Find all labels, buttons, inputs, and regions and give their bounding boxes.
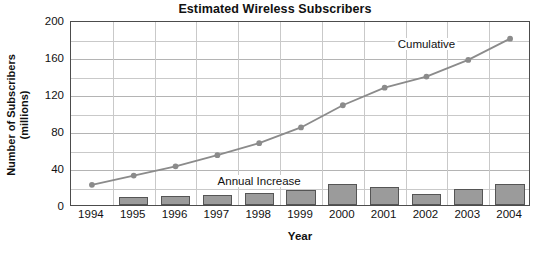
cumulative-marker-2003 xyxy=(465,57,471,63)
cumulative-marker-2000 xyxy=(340,102,346,108)
y-axis-tick-label: 80 xyxy=(51,126,64,138)
cumulative-line-path xyxy=(92,39,510,185)
annotation-cumulative: Cumulative xyxy=(396,38,458,50)
x-axis-tick-label-1999: 1999 xyxy=(287,208,313,220)
chart-title: Estimated Wireless Subscribers xyxy=(0,2,550,16)
y-axis-label-line1: Number of Subscribers xyxy=(5,54,17,176)
y-axis-tick-label: 0 xyxy=(58,200,64,212)
y-axis-tick-labels: 04080120160200 xyxy=(24,21,68,206)
y-axis-tick-label: 200 xyxy=(45,15,64,27)
cumulative-marker-1997 xyxy=(214,152,220,158)
plot-area: CumulativeAnnual Increase xyxy=(70,21,530,206)
cumulative-marker-1996 xyxy=(173,163,179,169)
x-axis-tick-label-2002: 2002 xyxy=(413,208,439,220)
x-axis-tick-label-1998: 1998 xyxy=(245,208,271,220)
x-axis-tick-label-1996: 1996 xyxy=(162,208,188,220)
chart-figure: Estimated Wireless Subscribers Number of… xyxy=(0,0,550,254)
x-axis-tick-labels: 1994199519961997199819992000200120022003… xyxy=(70,208,530,226)
x-axis-tick-label-2001: 2001 xyxy=(371,208,397,220)
y-axis-tick-label: 160 xyxy=(45,52,64,64)
cumulative-marker-2002 xyxy=(424,74,430,80)
y-axis-tick-label: 40 xyxy=(51,163,64,175)
x-axis-tick-label-1997: 1997 xyxy=(204,208,230,220)
x-axis-tick-label-1995: 1995 xyxy=(120,208,146,220)
annotation-annual-increase: Annual Increase xyxy=(216,175,303,187)
y-axis-tick-label: 120 xyxy=(45,89,64,101)
cumulative-marker-1995 xyxy=(131,173,137,179)
x-axis-tick-label-2000: 2000 xyxy=(329,208,355,220)
x-axis-tick-label-2003: 2003 xyxy=(454,208,480,220)
plot-inner: CumulativeAnnual Increase xyxy=(71,22,529,205)
cumulative-marker-1999 xyxy=(298,125,304,131)
x-axis-tick-label-2004: 2004 xyxy=(496,208,522,220)
cumulative-marker-2004 xyxy=(507,36,513,42)
x-axis-tick-label-1994: 1994 xyxy=(78,208,104,220)
cumulative-marker-2001 xyxy=(382,85,388,91)
x-axis-label: Year xyxy=(70,230,530,242)
cumulative-marker-1998 xyxy=(256,140,262,146)
cumulative-marker-1994 xyxy=(89,182,95,188)
